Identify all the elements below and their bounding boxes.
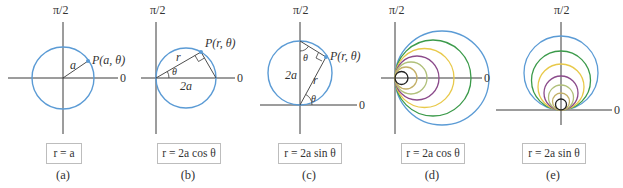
polar-axis-label: 0 (359, 98, 365, 112)
radius-label: r (313, 73, 318, 87)
point-label: P(r, θ) (329, 49, 361, 63)
panel-b-graph: π/2 0 r θ 2a P(r, θ) (141, 3, 243, 134)
point-p (324, 55, 328, 59)
caption-a: (a) (43, 168, 83, 183)
point-label: P(a, θ) (91, 53, 125, 67)
panel-e-graph: π/2 0 (496, 3, 620, 125)
equation-box-c: r = 2a sin θ (278, 143, 342, 164)
angle-arc (167, 72, 169, 79)
point-p (86, 59, 90, 63)
polar-axis-label: 0 (484, 71, 490, 85)
vertical-axis-label: π/2 (53, 3, 68, 17)
vertical-axis-label: π/2 (389, 3, 404, 17)
top-angle-label: θ (303, 52, 308, 63)
vertical-axis-label: π/2 (554, 3, 569, 17)
angle-label: θ (172, 66, 177, 77)
equation-box-e: r = 2a sin θ (522, 143, 586, 164)
point-label: P(r, θ) (204, 36, 236, 50)
diameter-label: 2a (180, 79, 192, 93)
panel-c-graph: π/2 0 θ 2a r θ P(r, θ) (260, 3, 365, 134)
radius-label: r (176, 50, 181, 64)
point-p (199, 50, 203, 54)
polar-axis-label: 0 (614, 103, 620, 117)
panel-d-graph: π/2 0 (381, 3, 490, 134)
equation-box-b: r = 2a cos θ (157, 143, 221, 164)
radius-label: a (70, 58, 76, 72)
angle-label: θ (311, 93, 316, 104)
caption-b: (b) (168, 168, 208, 183)
diameter-label: 2a (285, 68, 297, 82)
top-angle-arc (300, 46, 309, 51)
vertical-axis-label: π/2 (150, 3, 165, 17)
polar-axis-label: 0 (120, 71, 126, 85)
caption-e: (e) (533, 168, 573, 183)
caption-d: (d) (412, 168, 452, 183)
panel-a-graph: π/2 0 a P(a, θ) (8, 3, 126, 134)
vertical-axis-label: π/2 (293, 3, 308, 17)
equation-box-a: r = a (46, 143, 82, 164)
equation-box-d: r = 2a cos θ (401, 143, 465, 164)
polar-axis-label: 0 (237, 71, 243, 85)
caption-c: (c) (289, 168, 329, 183)
